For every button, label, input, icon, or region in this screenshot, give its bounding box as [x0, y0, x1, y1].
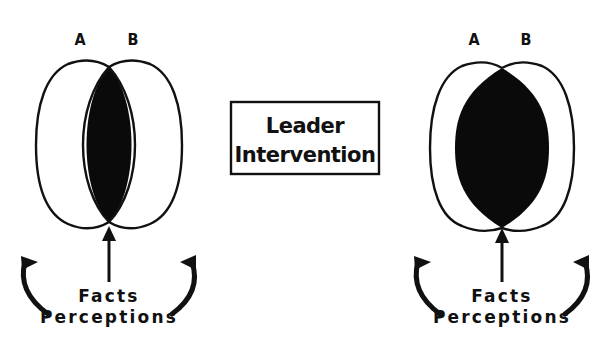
- left-up-arrow-icon: [102, 226, 116, 282]
- right-caption-facts: Facts: [471, 286, 532, 306]
- right-label-b: B: [521, 30, 532, 49]
- right-panel: A B Facts Perceptions: [414, 30, 589, 327]
- right-caption-perceptions: Perceptions: [433, 307, 571, 327]
- box-line-intervention: Intervention: [235, 143, 376, 167]
- left-curved-arrow-left-icon: [21, 256, 48, 314]
- right-overlap-lens: [455, 68, 549, 228]
- box-line-leader: Leader: [266, 114, 346, 138]
- left-caption-perceptions: Perceptions: [40, 307, 178, 327]
- left-curved-arrow-right-icon: [172, 255, 196, 314]
- right-curved-arrow-right-icon: [565, 255, 589, 314]
- left-panel: A B Facts Perceptions: [21, 30, 196, 327]
- right-label-a: A: [468, 30, 480, 49]
- left-label-b: B: [128, 30, 139, 49]
- right-curved-arrow-left-icon: [414, 256, 440, 314]
- left-label-a: A: [74, 30, 86, 49]
- right-up-arrow-icon: [495, 228, 509, 282]
- left-caption-facts: Facts: [78, 286, 139, 306]
- leader-intervention-diagram: A B Facts Perceptions Leader Int: [0, 0, 616, 343]
- leader-intervention-box: Leader Intervention: [231, 102, 379, 174]
